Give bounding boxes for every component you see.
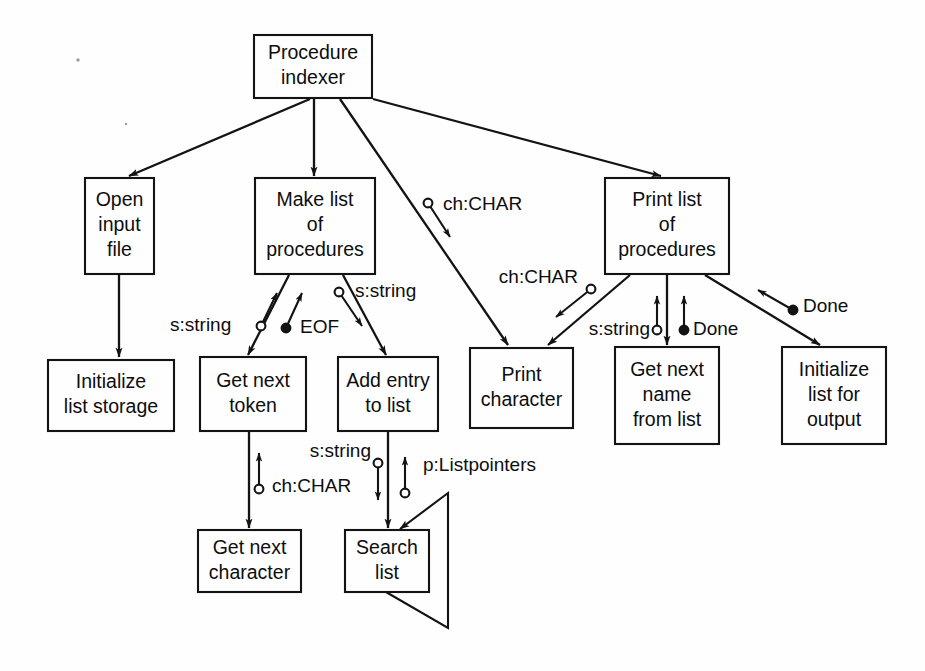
paper-specks — [76, 58, 127, 125]
module-label-add-entry-to-list: to list — [365, 394, 411, 416]
couple-label: s:string — [310, 440, 371, 461]
couple-s-string-add-entry: s:string — [335, 280, 417, 326]
data-couple-circle — [335, 288, 344, 297]
module-label-make-list: procedures — [266, 238, 364, 260]
module-label-print-character: character — [481, 388, 563, 410]
module-label-get-next-name: from list — [633, 408, 702, 430]
module-label-open-input-file: file — [107, 238, 132, 260]
module-label-print-list: of — [659, 213, 676, 235]
call-arrow-indexer-to-open-input-file — [129, 99, 310, 176]
module-label-add-entry-to-list: Add entry — [346, 369, 430, 391]
module-label-get-next-name: Get next — [630, 358, 704, 380]
module-print-list[interactable]: Print listofprocedures — [605, 178, 729, 274]
module-label-open-input-file: input — [98, 213, 141, 235]
module-add-entry-to-list[interactable]: Add entryto list — [338, 357, 438, 431]
module-label-initialize-output: list for — [808, 383, 861, 405]
module-label-search-list: list — [375, 561, 399, 583]
data-couple-circle — [424, 199, 433, 208]
call-arrow-make-list-to-get-token — [248, 275, 289, 355]
couple-label: Done — [803, 295, 848, 316]
couple-label: ch:CHAR — [272, 475, 351, 496]
module-label-get-next-name: name — [643, 383, 692, 405]
module-initialize-output[interactable]: Initializelist foroutput — [782, 347, 886, 444]
couple-label: ch:CHAR — [499, 266, 578, 287]
module-label-initialize-storage: Initialize — [76, 370, 146, 392]
couple-label: s:string — [170, 314, 231, 335]
module-label-open-input-file: Open — [96, 188, 144, 210]
module-label-procedure-indexer: indexer — [281, 66, 345, 88]
data-couple-circle — [374, 459, 383, 468]
couple-label: s:string — [355, 280, 416, 301]
module-label-procedure-indexer: Procedure — [268, 41, 358, 63]
module-label-make-list: Make list — [277, 188, 355, 210]
module-label-make-list: of — [307, 213, 324, 235]
couple-label: p:Listpointers — [423, 454, 536, 475]
couple-ch-char-print-char: ch:CHAR — [424, 193, 523, 237]
module-print-character[interactable]: Printcharacter — [470, 348, 573, 428]
module-label-print-character: Print — [501, 363, 542, 385]
module-label-print-list: Print list — [632, 188, 702, 210]
module-label-print-list: procedures — [618, 238, 716, 260]
couple-s-string-get-name: s:string — [589, 296, 662, 339]
module-procedure-indexer[interactable]: Procedureindexer — [254, 35, 372, 98]
module-label-get-next-token: token — [229, 394, 277, 416]
data-couple-circle — [255, 485, 264, 494]
data-couple-circle — [401, 489, 410, 498]
couple-s-string-get-token: s:string — [170, 293, 277, 335]
module-label-get-next-token: Get next — [216, 369, 290, 391]
couple-label: ch:CHAR — [443, 193, 522, 214]
couple-label: EOF — [300, 316, 339, 337]
control-couple-circle — [789, 306, 798, 315]
module-label-search-list: Search — [356, 536, 418, 558]
structure-chart-svg: ProcedureindexerOpeninputfileMake listof… — [0, 0, 925, 671]
data-couple-circle — [587, 285, 596, 294]
couple-label: Done — [693, 318, 738, 339]
module-label-get-next-character: Get next — [213, 536, 287, 558]
couple-done-init-output: Done — [758, 290, 848, 316]
module-initialize-storage[interactable]: Initializelist storage — [48, 360, 174, 431]
module-label-initialize-output: output — [807, 408, 862, 430]
module-label-initialize-output: Initialize — [799, 358, 869, 380]
couple-eof-get-token: EOF — [282, 293, 339, 337]
module-label-initialize-storage: list storage — [64, 395, 158, 417]
couple-label: s:string — [589, 318, 650, 339]
couple-done-get-name: Done — [680, 296, 739, 339]
control-couple-circle — [282, 324, 291, 333]
call-arrow-indexer-to-print-list — [373, 99, 661, 176]
module-make-list[interactable]: Make listofprocedures — [255, 178, 375, 274]
couple-p-listpointers: p:Listpointers — [401, 454, 536, 497]
module-label-get-next-character: character — [209, 561, 291, 583]
module-get-next-character[interactable]: Get nextcharacter — [198, 530, 301, 592]
structure-chart-canvas: ProcedureindexerOpeninputfileMake listof… — [0, 0, 925, 671]
module-get-next-name[interactable]: Get nextnamefrom list — [615, 347, 719, 444]
control-couple-circle — [680, 326, 689, 335]
module-search-list[interactable]: Searchlist — [345, 530, 429, 592]
data-couple-circle — [257, 322, 266, 331]
couple-ch-char-print-list: ch:CHAR — [499, 266, 596, 317]
data-couple-circle — [653, 326, 662, 335]
module-get-next-token[interactable]: Get nexttoken — [200, 357, 306, 431]
module-open-input-file[interactable]: Openinputfile — [85, 178, 154, 274]
